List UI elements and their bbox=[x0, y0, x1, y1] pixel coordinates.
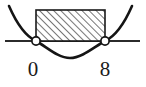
root-marker-right bbox=[101, 37, 109, 45]
parabola-rectangle-diagram: 0 8 bbox=[0, 0, 146, 87]
figure-container: 0 8 bbox=[0, 0, 146, 87]
inscribed-rectangle-hatch bbox=[36, 10, 105, 41]
x-tick-label-right: 8 bbox=[100, 57, 111, 81]
root-marker-left bbox=[32, 37, 40, 45]
x-tick-label-left: 0 bbox=[28, 57, 39, 81]
